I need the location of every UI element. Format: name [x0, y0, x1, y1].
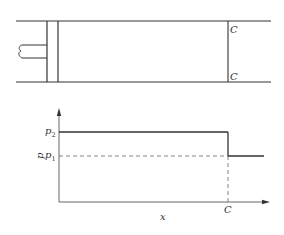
x-axis-arrow-icon: [262, 200, 270, 204]
y-axis-arrow-icon: [57, 108, 61, 116]
x-axis-label: x: [160, 211, 166, 222]
p1-label: p1: [45, 149, 56, 163]
wave-front-label-top: C: [230, 24, 238, 35]
piston-wave-diagram: C C p2 p1 p x C: [0, 0, 284, 235]
y-axis-label: p: [34, 152, 45, 159]
wave-front-label-bottom: C: [230, 71, 238, 82]
pressure-graph: p2 p1 p x C: [34, 108, 270, 222]
p2-label: p2: [45, 125, 56, 139]
rod-break-icon: [19, 45, 22, 58]
tube-schematic: C C: [16, 21, 271, 82]
wave-front-graph-label: C: [224, 204, 232, 215]
